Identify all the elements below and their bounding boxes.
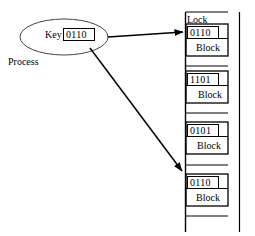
arrow-process-to-fourth-block [90,48,182,171]
block-4-key-value[interactable]: 0110 [187,176,219,189]
diagram-canvas: Key 0110 Process Lock 0110 Block 1101 Bl… [0,0,255,236]
lock-column-label: Lock [187,15,208,25]
block-2-key-value[interactable]: 1101 [187,73,219,86]
block-4-body-label: Block [196,193,220,203]
block-1-key-value[interactable]: 0110 [187,26,219,39]
block-2-body-label: Block [198,90,222,100]
block-1-body-label: Block [196,43,220,53]
process-caption: Process [8,57,39,67]
process-key-value[interactable]: 0110 [63,28,95,41]
arrow-process-to-first-block [108,32,183,37]
block-3-body-label: Block [197,141,221,151]
process-key-label: Key [45,30,62,40]
block-3-key-value[interactable]: 0101 [187,124,219,137]
